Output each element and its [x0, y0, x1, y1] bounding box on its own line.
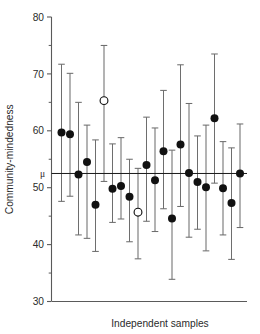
data-point-filled: [109, 185, 117, 193]
data-point-open: [134, 208, 142, 216]
data-point-filled: [160, 147, 168, 155]
x-axis-title: Independent samples: [111, 318, 208, 329]
y-tick-label: 50: [33, 182, 45, 193]
y-tick-label: 30: [33, 296, 45, 307]
mu-label: μ: [40, 169, 45, 179]
data-point-filled: [185, 169, 193, 177]
y-tick-label: 60: [33, 125, 45, 136]
y-axis-title: Community-mindedness: [4, 104, 15, 214]
y-tick-label: 40: [33, 239, 45, 250]
data-point-filled: [83, 158, 91, 166]
data-point-filled: [58, 129, 66, 137]
community-mindedness-errorbar-plot: 304050607080 Community-mindedness Indepe…: [0, 0, 260, 334]
data-point-filled: [236, 169, 244, 177]
data-point-filled: [126, 193, 134, 201]
data-point-filled: [219, 184, 227, 192]
chart-figure: 304050607080 Community-mindedness Indepe…: [0, 0, 260, 334]
data-point-filled: [66, 130, 74, 138]
data-point-filled: [75, 171, 83, 179]
data-point-filled: [228, 199, 236, 207]
data-point-filled: [211, 114, 219, 122]
data-point-filled: [194, 178, 202, 186]
data-point-filled: [202, 183, 210, 191]
data-point-open: [100, 97, 108, 105]
y-tick-label: 80: [33, 12, 45, 23]
data-point-filled: [92, 201, 100, 209]
data-point-filled: [143, 161, 151, 169]
data-point-filled: [168, 214, 176, 222]
y-tick-label: 70: [33, 69, 45, 80]
data-point-filled: [177, 140, 185, 148]
data-point-filled: [117, 182, 125, 190]
data-point-filled: [151, 176, 159, 184]
